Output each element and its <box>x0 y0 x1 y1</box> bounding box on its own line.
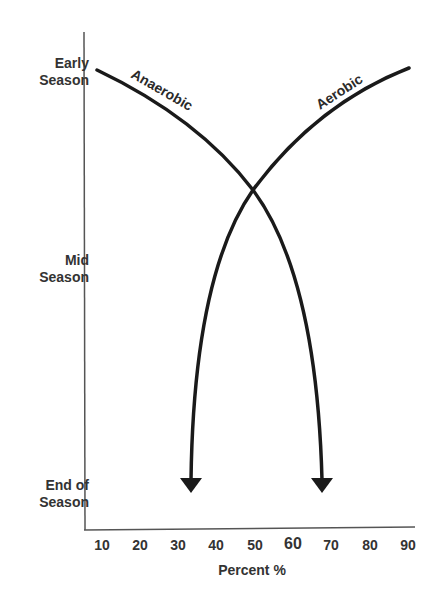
y-label-line: Season <box>39 494 89 511</box>
y-label-line: Mid <box>39 252 89 269</box>
aerobic-curve <box>191 68 409 480</box>
y-label-line: Early <box>39 55 89 72</box>
y-label-mid-season: Mid Season <box>39 252 89 286</box>
x-tick-90: 90 <box>400 537 416 553</box>
x-tick-30: 30 <box>170 537 186 553</box>
x-tick-80: 80 <box>362 537 378 553</box>
anaerobic-arrowhead-icon <box>311 478 333 493</box>
x-tick-20: 20 <box>132 537 148 553</box>
chart-canvas: Anaerobic Aerobic <box>0 0 441 602</box>
x-axis-title: Percent % <box>218 562 286 578</box>
y-label-line: End of <box>39 477 89 494</box>
x-tick-50: 50 <box>247 537 263 553</box>
y-label-line: Season <box>39 269 89 286</box>
aerobic-arrowhead-icon <box>180 478 202 493</box>
x-tick-10: 10 <box>94 537 110 553</box>
x-tick-60: 60 <box>284 535 302 553</box>
y-label-line: Season <box>39 72 89 89</box>
x-tick-70: 70 <box>323 537 339 553</box>
y-label-early-season: Early Season <box>39 55 89 89</box>
x-tick-40: 40 <box>208 537 224 553</box>
anaerobic-curve <box>97 70 322 480</box>
y-label-end-of-season: End of Season <box>39 477 89 511</box>
x-axis <box>84 527 415 530</box>
